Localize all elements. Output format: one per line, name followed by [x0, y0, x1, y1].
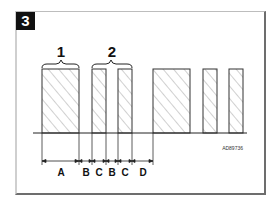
- brace-group-1: [42, 60, 79, 68]
- figure-code: AD89736: [222, 145, 243, 151]
- bar-narrow-4: [229, 69, 243, 133]
- bar-wide-2: [153, 69, 190, 133]
- brace-group-2: [92, 60, 132, 68]
- dimension-label-b1: B: [82, 167, 89, 178]
- extension-lines: [42, 133, 153, 165]
- bar-narrow-2: [118, 69, 132, 133]
- dimension-label-c2: C: [121, 167, 128, 178]
- bar-wide-1: [42, 69, 79, 133]
- bar-narrow-1: [92, 69, 106, 133]
- group-label-1: 1: [57, 43, 65, 60]
- dimension-label-c1: C: [95, 167, 102, 178]
- pulse-diagram: 1 2 A B C B C D: [0, 0, 280, 203]
- dimension-label-b2: B: [108, 167, 115, 178]
- dimension-label-a: A: [57, 167, 64, 178]
- bar-narrow-3: [203, 69, 217, 133]
- dimension-label-d: D: [139, 167, 146, 178]
- dimension-arrows: [42, 160, 153, 163]
- group-label-2: 2: [108, 43, 116, 60]
